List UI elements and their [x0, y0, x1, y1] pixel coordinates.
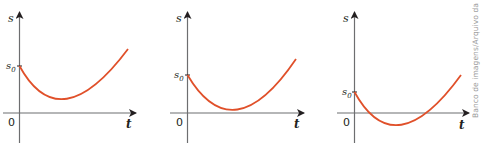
position-curve	[20, 49, 129, 99]
image-credit: Banco de imagens/Arquivo da editora	[471, 0, 480, 118]
t-axis-label: t	[294, 117, 300, 131]
graph-1: s s0 0 t	[3, 12, 136, 143]
origin-label: 0	[176, 116, 183, 129]
kinematics-figure: s s0 0 t s s0 0 t s s0 0 t Banco de	[0, 0, 483, 150]
origin-label: 0	[343, 116, 350, 129]
s-axis-label: s	[8, 12, 14, 25]
graph-3: s s0 0 t	[337, 12, 469, 143]
t-axis-label: t	[126, 117, 132, 131]
graphs-canvas: s s0 0 t s s0 0 t s s0 0 t	[0, 0, 483, 150]
s0-label: s0	[6, 60, 16, 74]
position-curve	[188, 59, 297, 110]
graph-2: s s0 0 t	[170, 12, 304, 143]
s0-label: s0	[174, 69, 184, 83]
s-axis-label: s	[343, 12, 349, 25]
position-curve	[355, 75, 462, 125]
s0-label: s0	[342, 86, 352, 100]
origin-label: 0	[8, 116, 15, 129]
t-axis-label: t	[459, 118, 465, 132]
s-axis-label: s	[176, 12, 182, 25]
